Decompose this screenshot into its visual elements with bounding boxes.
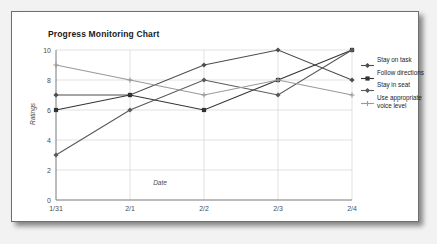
data-point-marker xyxy=(128,93,132,97)
data-point-marker xyxy=(365,76,369,80)
data-point-marker xyxy=(54,108,58,112)
legend-marker-icon xyxy=(361,81,374,90)
data-point-marker xyxy=(349,77,354,82)
y-axis-tick-label: 2 xyxy=(47,167,51,174)
chart-title: Progress Monitoring Chart xyxy=(48,29,159,39)
x-axis-tick-label: 1/31 xyxy=(49,205,63,212)
y-axis-tick-label: 10 xyxy=(43,47,51,54)
data-point-marker xyxy=(53,152,58,157)
data-point-marker xyxy=(365,100,370,105)
x-axis-tick-label: 2/2 xyxy=(199,205,209,212)
chart-card: Progress Monitoring Chart 0246810 1/312/… xyxy=(11,11,419,222)
legend-item[interactable]: Stay in seat xyxy=(361,81,431,90)
legend-marker-icon xyxy=(361,69,374,78)
x-axis-title: Date xyxy=(12,179,308,186)
legend-item[interactable]: Follow directions xyxy=(361,69,431,78)
chart-plot-svg xyxy=(56,50,352,200)
legend-item-label: Stay on task xyxy=(377,56,412,64)
x-axis-tick-label: 2/1 xyxy=(125,205,135,212)
legend-item[interactable]: Use appropriate voice level xyxy=(361,94,431,110)
legend-item-label: Follow directions xyxy=(377,69,424,77)
data-point-marker xyxy=(275,92,280,97)
data-point-marker xyxy=(349,92,354,97)
data-point-marker xyxy=(201,77,206,82)
y-axis-tick-label: 6 xyxy=(47,107,51,114)
x-axis-tick-label: 2/3 xyxy=(273,205,283,212)
data-point-marker xyxy=(53,92,58,97)
y-axis-tick-label: 0 xyxy=(47,197,51,204)
data-point-marker xyxy=(201,62,206,67)
legend-marker-icon xyxy=(361,56,374,65)
data-point-marker xyxy=(202,108,206,112)
chart-legend: Stay on taskFollow directionsStay in sea… xyxy=(361,56,431,113)
data-point-marker xyxy=(365,88,370,93)
gridlines xyxy=(56,50,352,200)
legend-item[interactable]: Stay on task xyxy=(361,56,431,65)
y-axis-title: Ratings xyxy=(29,103,36,125)
legend-marker-icon xyxy=(361,94,374,103)
x-axis-tick-label: 2/4 xyxy=(347,205,357,212)
y-axis-tick-label: 4 xyxy=(47,137,51,144)
data-point-marker xyxy=(53,62,58,67)
screenshot-root: Progress Monitoring Chart 0246810 1/312/… xyxy=(0,0,437,244)
legend-item-label: Use appropriate voice level xyxy=(377,94,431,110)
data-point-marker xyxy=(275,47,280,52)
data-point-marker xyxy=(127,77,132,82)
legend-item-label: Stay in seat xyxy=(377,81,410,89)
y-axis-tick-label: 8 xyxy=(47,77,51,84)
data-point-marker xyxy=(365,63,370,68)
data-point-marker xyxy=(201,92,206,97)
data-point-marker xyxy=(127,107,132,112)
plot-area: 0246810 1/312/12/22/32/4 xyxy=(56,50,352,200)
